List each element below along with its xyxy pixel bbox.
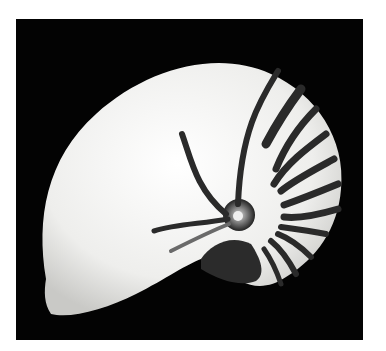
photo-frame [16, 19, 363, 340]
nautilus-shell-illustration [16, 19, 363, 340]
